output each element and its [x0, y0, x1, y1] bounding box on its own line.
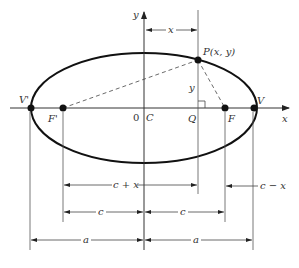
c-plus-x-label: c + x	[113, 179, 139, 190]
vertex-left-dot	[28, 105, 35, 112]
c-right-label: c	[180, 206, 186, 217]
a-left-label: a	[83, 234, 89, 245]
point-p-label: P(x, y)	[202, 46, 235, 57]
origin-label: 0	[133, 112, 139, 123]
ellipse-diagram: x y x 0 C V' F' P(x, y) Q F V y c + x c …	[0, 0, 299, 268]
focus-left-label: F'	[47, 113, 58, 124]
vertex-left-label: V'	[19, 94, 29, 105]
focus-left-dot	[60, 105, 67, 112]
center-label: C	[146, 112, 154, 123]
vertical-y-label: y	[188, 82, 195, 93]
x-axis-label: x	[282, 113, 288, 124]
focus-right-dot	[222, 105, 229, 112]
point-p-dot	[195, 57, 202, 64]
top-x-label: x	[168, 24, 174, 35]
foot-q-label: Q	[188, 113, 196, 124]
y-axis-label: y	[132, 9, 139, 20]
focal-radius-left	[63, 60, 198, 108]
right-angle-mark	[198, 101, 205, 108]
c-left-label: c	[98, 206, 104, 217]
a-right-label: a	[193, 234, 199, 245]
vertex-right-label: V	[257, 95, 266, 106]
focus-right-label: F	[227, 113, 236, 124]
c-minus-x-label: c − x	[260, 180, 286, 191]
